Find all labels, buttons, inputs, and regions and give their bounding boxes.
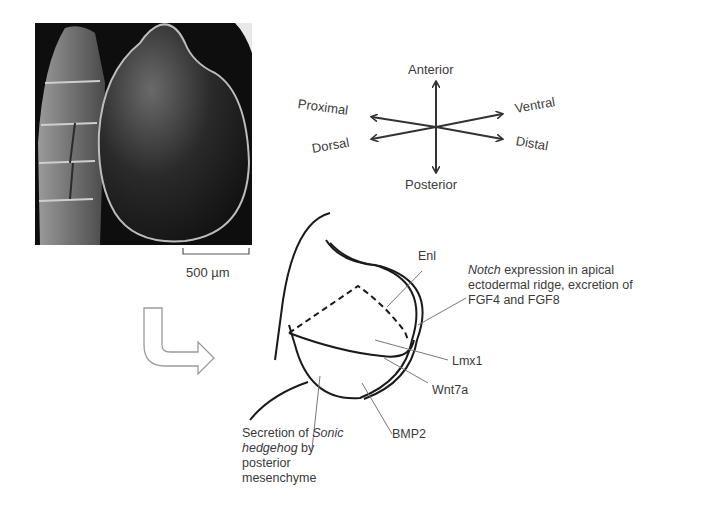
- label-notch-expression: Notch expression in apical ectodermal ri…: [468, 263, 633, 308]
- label-lmx1: Lmx1: [452, 355, 483, 368]
- label-enl: Enl: [418, 250, 436, 263]
- micrograph-illustration: [35, 23, 252, 245]
- label-ventral: Ventral: [514, 95, 556, 115]
- label-proximal: Proximal: [297, 97, 349, 117]
- notch-italic: Notch: [468, 263, 501, 277]
- label-posterior: Posterior: [405, 178, 457, 191]
- label-anterior: Anterior: [408, 63, 454, 76]
- sem-micrograph: [35, 23, 252, 245]
- label-bmp2: BMP2: [392, 428, 426, 441]
- label-distal: Distal: [515, 134, 549, 152]
- label-sonic-hedgehog: Secretion of Sonic hedgehog by posterior…: [242, 426, 343, 486]
- scale-bar-label: 500 µm: [186, 266, 230, 279]
- label-wnt7a: Wnt7a: [432, 384, 468, 397]
- label-dorsal: Dorsal: [311, 136, 350, 155]
